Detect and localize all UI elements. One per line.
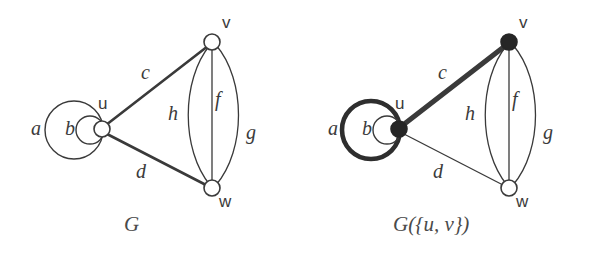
left-edge-c <box>106 46 208 125</box>
left-vertex-label-w: w <box>219 193 231 210</box>
left-edge-label-c: c <box>141 62 150 82</box>
figure-root: a b c d h f g u v w a b c d h f g u v w … <box>0 0 597 260</box>
right-edge-label-h: h <box>465 103 475 123</box>
left-vertex-u <box>94 121 110 137</box>
left-edge-label-b: b <box>65 118 75 138</box>
right-vertex-label-u: u <box>395 95 404 112</box>
left-vertex-v <box>204 34 220 50</box>
right-edge-c <box>403 46 505 125</box>
left-edge-label-g: g <box>246 122 256 142</box>
right-edge-h <box>485 45 507 185</box>
left-edge-g <box>216 45 239 185</box>
right-edge-g <box>513 45 536 185</box>
right-edge-label-a: a <box>328 118 338 138</box>
right-vertex-v <box>501 34 517 50</box>
caption-right-G-uv: G({u, v}) <box>393 214 469 235</box>
graph-drawing-canvas <box>0 0 597 260</box>
left-edge-h <box>188 45 210 185</box>
right-edge-label-b: b <box>362 118 372 138</box>
left-vertex-label-u: u <box>98 95 107 112</box>
right-edge-label-d: d <box>433 161 443 181</box>
right-vertex-w <box>501 180 517 196</box>
right-vertex-label-w: w <box>516 193 528 210</box>
right-edge-label-f: f <box>512 89 518 109</box>
right-edge-label-g: g <box>543 122 553 142</box>
right-vertex-label-v: v <box>519 14 528 31</box>
caption-left-G: G <box>124 214 139 235</box>
left-edge-label-a: a <box>31 118 41 138</box>
left-edge-label-f: f <box>215 89 221 109</box>
left-edge-label-d: d <box>136 161 146 181</box>
right-edge-label-c: c <box>438 62 447 82</box>
left-vertex-label-v: v <box>222 14 231 31</box>
left-vertex-w <box>204 180 220 196</box>
right-vertex-u <box>391 121 407 137</box>
left-edge-label-h: h <box>168 103 178 123</box>
